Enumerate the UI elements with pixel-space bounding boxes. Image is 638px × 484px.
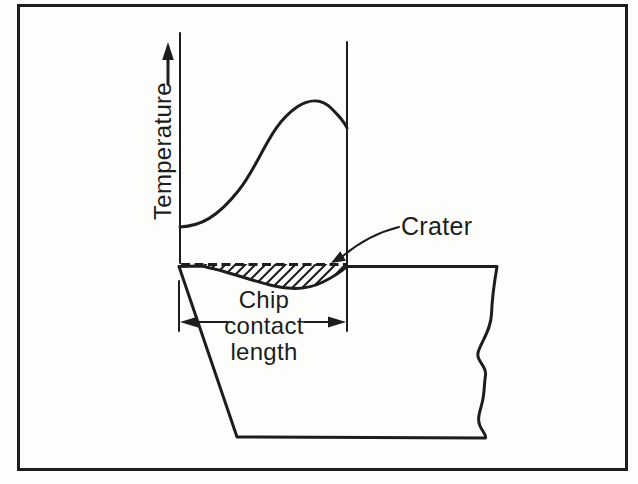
crater-hatching [201,264,347,288]
dimension-arrow-left-icon [180,317,228,328]
temperature-axis-arrow-icon [162,42,174,84]
chip-contact-length-label: Chip contact length [224,287,303,365]
crater-label: Crater [401,213,472,239]
temperature-axis-label: Temperature [150,82,176,220]
chip-contact-length-line2: contact [224,313,303,339]
temperature-curve [180,101,347,227]
chip-contact-length-line1: Chip [224,287,303,313]
diagram-linework [0,0,638,484]
chip-contact-length-line3: length [224,339,303,365]
crater-pointer-arrow-icon [331,227,399,263]
dimension-arrow-right-icon [304,317,346,328]
figure-canvas: Temperature Crater Chip contact length [0,0,638,484]
